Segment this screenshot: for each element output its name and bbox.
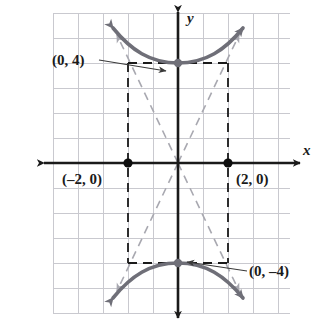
label-co-vertex-left: (–2, 0) <box>62 171 102 188</box>
asymptote-neg-lower <box>178 163 239 291</box>
point-vertex-bottom <box>174 259 182 267</box>
asymptote-pos-lower <box>117 163 178 291</box>
point-co-vertex-left <box>123 158 132 167</box>
point-co-vertex-right <box>223 158 232 167</box>
asymptote-neg-upper <box>117 35 178 163</box>
hyperbola-graph-svg: (0, 4) (0, –4) (–2, 0) (2, 0) y x <box>0 0 335 331</box>
figure-canvas: (0, 4) (0, –4) (–2, 0) (2, 0) y x <box>0 0 335 331</box>
y-axis-label: y <box>185 10 194 26</box>
asymptote-pos-upper <box>178 35 239 163</box>
x-axis-label: x <box>302 142 311 158</box>
label-co-vertex-right: (2, 0) <box>236 171 269 188</box>
label-vertex-bottom: (0, –4) <box>249 263 289 280</box>
point-vertex-top <box>174 59 182 67</box>
label-vertex-top: (0, 4) <box>52 52 85 69</box>
